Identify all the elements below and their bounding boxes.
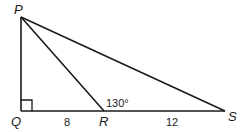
- point-label-R: R: [99, 114, 108, 129]
- length-label-QR: 8: [64, 116, 70, 128]
- point-label-P: P: [14, 2, 23, 17]
- triangle-diagram: P Q R S 8 12 130°: [0, 0, 244, 132]
- point-label-Q: Q: [11, 114, 21, 129]
- angle-label-PRS: 130°: [106, 97, 129, 109]
- point-label-S: S: [228, 109, 237, 124]
- length-label-RS: 12: [166, 116, 178, 128]
- right-angle-marker-icon: [21, 100, 32, 111]
- segment-PR: [21, 17, 104, 111]
